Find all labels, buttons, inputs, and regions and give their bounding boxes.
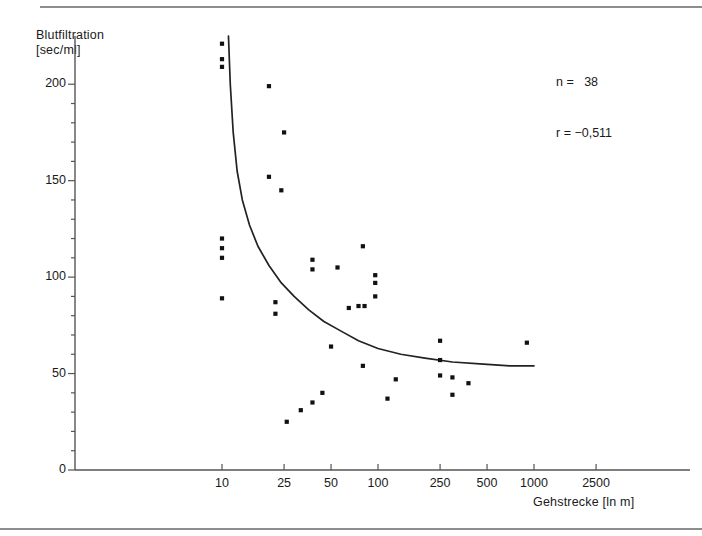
- data-point: [267, 84, 271, 88]
- y-tick-label: 0: [26, 462, 66, 476]
- data-point: [356, 304, 360, 308]
- data-point: [373, 273, 377, 277]
- scatter-plot: [0, 0, 702, 536]
- data-point: [361, 244, 365, 248]
- data-point: [362, 304, 366, 308]
- data-point: [273, 312, 277, 316]
- regression-curve: [228, 36, 534, 366]
- axis-lines: [75, 36, 690, 470]
- data-point: [220, 42, 224, 46]
- data-point: [220, 57, 224, 61]
- x-tick-label: 100: [348, 476, 408, 490]
- data-point: [310, 400, 314, 404]
- data-point: [347, 306, 351, 310]
- figure-container: Blutfiltration[sec/ml] Gehstrecke [ln m]…: [0, 0, 702, 536]
- data-point: [450, 393, 454, 397]
- data-point: [438, 339, 442, 343]
- regression-curve-path: [228, 36, 534, 366]
- data-point: [310, 258, 314, 262]
- data-point: [438, 358, 442, 362]
- data-point: [450, 375, 454, 379]
- data-point: [466, 381, 470, 385]
- y-tick-label: 50: [26, 366, 66, 380]
- data-point: [373, 281, 377, 285]
- data-point: [299, 408, 303, 412]
- data-point: [525, 341, 529, 345]
- data-point: [285, 420, 289, 424]
- data-point: [267, 175, 271, 179]
- y-tick-label: 100: [26, 269, 66, 283]
- data-point: [279, 188, 283, 192]
- x-tick-label: 2500: [566, 476, 626, 490]
- data-point: [361, 364, 365, 368]
- data-point: [220, 236, 224, 240]
- data-point: [220, 246, 224, 250]
- data-point: [320, 391, 324, 395]
- data-point: [394, 377, 398, 381]
- y-tick-label: 200: [26, 76, 66, 90]
- data-point: [329, 344, 333, 348]
- data-point: [273, 300, 277, 304]
- data-point: [438, 373, 442, 377]
- data-point: [310, 267, 314, 271]
- data-points: [220, 42, 529, 424]
- x-axis-ticks: [222, 464, 596, 470]
- data-point: [373, 294, 377, 298]
- data-point: [220, 296, 224, 300]
- data-point: [282, 130, 286, 134]
- x-tick-label: 1000: [504, 476, 564, 490]
- data-point: [220, 65, 224, 69]
- data-point: [385, 397, 389, 401]
- y-axis-ticks: [68, 84, 75, 470]
- x-tick-label: 10: [192, 476, 252, 490]
- y-tick-label: 150: [26, 173, 66, 187]
- data-point: [220, 256, 224, 260]
- data-point: [335, 265, 339, 269]
